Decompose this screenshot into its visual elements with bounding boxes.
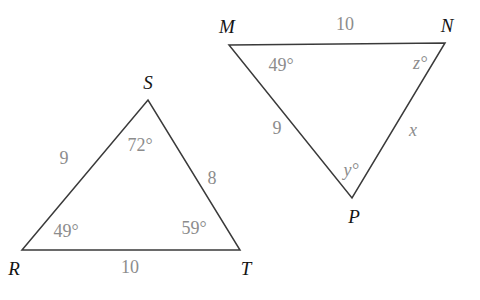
- vertex-label-p: P: [348, 207, 360, 226]
- vertex-label-r: R: [8, 259, 20, 278]
- vertex-label-s: S: [143, 73, 153, 92]
- side-label-rs: 9: [60, 149, 69, 167]
- side-label-st: 8: [208, 169, 217, 187]
- geometry-diagram: R S T 9 8 10 49° 72° 59° M N P 10 9 x 49…: [0, 0, 480, 300]
- vertex-label-n: N: [441, 16, 454, 35]
- angle-label-t: 59°: [181, 219, 206, 237]
- triangles-svg: [0, 0, 480, 300]
- angle-label-s: 72°: [127, 136, 152, 154]
- vertex-label-m: M: [219, 17, 235, 36]
- vertex-label-t: T: [241, 259, 252, 278]
- angle-label-r: 49°: [53, 222, 78, 240]
- side-label-np: x: [409, 121, 417, 139]
- angle-label-p: y°: [343, 161, 358, 179]
- side-label-mp: 9: [273, 119, 282, 137]
- side-label-mn: 10: [336, 15, 354, 33]
- angle-label-m: 49°: [268, 56, 293, 74]
- angle-label-n: z°: [413, 54, 427, 72]
- side-label-rt: 10: [121, 258, 139, 276]
